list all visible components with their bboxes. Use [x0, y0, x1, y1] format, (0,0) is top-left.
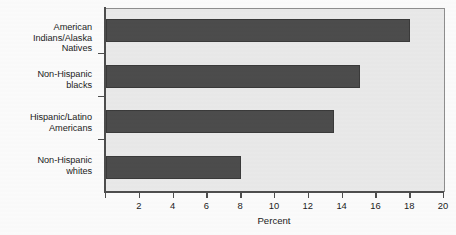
bar-2 [106, 110, 334, 133]
y-axis-label-non-hispanic-whites: Non-Hispanic whites [0, 155, 92, 176]
x-axis-tick [274, 192, 275, 198]
y-axis-label-line: Americans [0, 123, 92, 134]
y-axis-label-american-indians-alaska-natives: American Indians/Alaska Natives [0, 22, 92, 54]
y-axis-label-line: Natives [0, 43, 92, 54]
x-axis-tick-label: 10 [259, 200, 289, 211]
y-axis-label-line: Hispanic/Latino [0, 112, 92, 123]
bar-chart-figure: American Indians/Alaska Natives Non-Hisp… [0, 0, 456, 235]
x-axis-tick-label: 14 [327, 200, 357, 211]
x-axis-tick-label: 6 [191, 200, 221, 211]
bars-layer [106, 9, 444, 191]
x-axis-tick [173, 192, 174, 198]
x-axis-tick [240, 192, 241, 198]
x-axis-tick [409, 192, 410, 198]
bar-3 [106, 156, 241, 179]
x-axis-tick [443, 192, 444, 198]
bar-0 [106, 19, 410, 42]
y-axis-category-labels: American Indians/Alaska Natives Non-Hisp… [0, 8, 98, 190]
y-axis-label-line: blacks [0, 80, 92, 91]
x-axis-title: Percent [105, 215, 443, 226]
y-axis-label-line: Non-Hispanic [0, 155, 92, 166]
x-axis-tick [139, 192, 140, 198]
y-axis-label-line: American [0, 22, 92, 33]
y-axis-tick [98, 53, 105, 54]
x-axis-tick-label: 20 [428, 200, 456, 211]
y-axis-label-line: Indians/Alaska [0, 33, 92, 44]
bar-1 [106, 65, 360, 88]
plot-area [105, 8, 445, 192]
x-axis-tick [308, 192, 309, 198]
y-axis-tick [98, 96, 105, 97]
y-axis-label-line: Non-Hispanic [0, 69, 92, 80]
y-axis-tick [98, 139, 105, 140]
y-axis-line [104, 7, 106, 192]
x-axis-tick-label: 8 [225, 200, 255, 211]
x-axis-tick-label: 18 [394, 200, 424, 211]
y-axis-label-line: whites [0, 166, 92, 177]
x-axis-tick [342, 192, 343, 198]
x-axis-tick [375, 192, 376, 198]
x-axis-tick [206, 192, 207, 198]
x-axis-tick-label: 16 [360, 200, 390, 211]
x-axis-tick-label: 2 [124, 200, 154, 211]
x-axis-tick-label: 12 [293, 200, 323, 211]
y-axis-label-non-hispanic-blacks: Non-Hispanic blacks [0, 69, 92, 90]
x-axis-tick-label: 4 [158, 200, 188, 211]
y-axis-label-hispanic-latino-americans: Hispanic/Latino Americans [0, 112, 92, 133]
x-axis-tick [105, 192, 106, 198]
